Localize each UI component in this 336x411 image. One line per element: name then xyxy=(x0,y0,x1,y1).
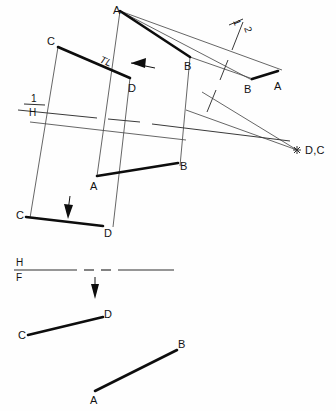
point-view-group: B A D,C xyxy=(244,71,325,156)
fold-line-12: 1 2 xyxy=(207,18,255,112)
projection-lines xyxy=(30,11,297,227)
view-arrow-front-head xyxy=(91,284,99,299)
segment-cd-auxiliary-truelength xyxy=(58,47,130,78)
auxiliary-view-lines xyxy=(58,11,190,78)
label-d-frontview: D xyxy=(104,308,112,320)
label-c-frontview: C xyxy=(18,329,26,341)
label-d-auxiliary: D xyxy=(128,82,136,94)
projector-c xyxy=(30,47,58,218)
reference-line-right xyxy=(30,122,186,140)
geometry-canvas: 1 H 1 2 A B C D TL A B C D B A xyxy=(0,0,336,411)
fold-line-1h: 1 H xyxy=(18,93,290,141)
label-b-topview: B xyxy=(180,160,188,172)
projector-d xyxy=(113,78,130,227)
segment-ab-topview xyxy=(97,163,178,176)
fold-1h-divider xyxy=(24,104,45,105)
fold-1h-dash xyxy=(108,119,140,122)
label-c-auxiliary: C xyxy=(47,35,55,47)
label-c-topview: C xyxy=(16,209,24,221)
segment-ba-pointview xyxy=(252,71,278,79)
fold-1h-upper-label: 1 xyxy=(31,93,37,104)
fold-12-seg2 xyxy=(207,90,216,112)
segment-ab-auxiliary xyxy=(120,11,190,57)
front-view-lines xyxy=(28,317,177,391)
label-a-frontview: A xyxy=(90,394,98,406)
label-a-auxiliary: A xyxy=(113,4,121,16)
view-arrow-upper-head xyxy=(131,58,146,68)
fold-hf-lower-label: F xyxy=(16,272,22,283)
projector-a xyxy=(97,11,120,176)
fold-12-lower-label: 2 xyxy=(242,25,254,34)
fold-line-hf: H F xyxy=(14,257,174,283)
label-b-pointview: B xyxy=(244,83,252,95)
label-b-auxiliary: B xyxy=(184,60,192,72)
label-a-pointview: A xyxy=(274,80,282,92)
label-d-topview: D xyxy=(104,227,112,239)
view-direction-arrow-front xyxy=(91,277,99,299)
fold-hf-upper-label: H xyxy=(16,257,24,268)
label-a-topview: A xyxy=(90,180,98,192)
view-direction-arrow-upper xyxy=(131,58,155,68)
view-direction-arrow-topview xyxy=(64,196,73,219)
label-b-frontview: B xyxy=(178,338,186,350)
point-marker-dc xyxy=(293,146,301,154)
segment-cd-topview xyxy=(26,217,103,226)
projector-b xyxy=(180,57,190,166)
segment-ab-frontview xyxy=(95,350,177,391)
fold-1h-lower-label: H xyxy=(29,107,37,118)
drawing-sheet: 1 H 1 2 A B C D TL A B C D B A xyxy=(0,0,336,411)
top-view-lines xyxy=(26,163,178,226)
view-arrow-topview-head xyxy=(64,204,73,219)
label-dc-pointview: D,C xyxy=(305,144,325,156)
segment-cd-frontview xyxy=(28,317,103,335)
